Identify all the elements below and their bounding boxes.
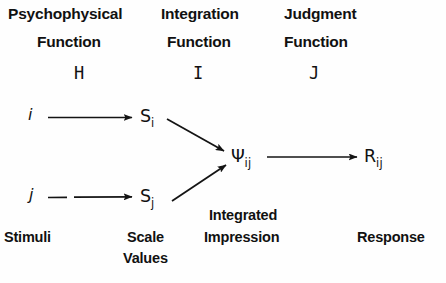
- bottom-label-values: Values: [123, 251, 168, 266]
- arrow-j-to-sj: [48, 197, 132, 198]
- column-header-integration-line1: Integration: [161, 6, 239, 22]
- node-scale-value-si: Si: [140, 108, 154, 129]
- diagram-canvas: Psychophysical Function H Integration Fu…: [0, 0, 446, 283]
- node-stimulus-i: i: [28, 107, 32, 123]
- function-symbol-h: H: [74, 65, 84, 82]
- psi-subscript: ij: [245, 156, 252, 170]
- bottom-label-integrated: Integrated: [209, 208, 277, 223]
- scale-value-si-subscript: i: [151, 116, 155, 130]
- bottom-label-scale: Scale: [127, 230, 164, 245]
- column-header-integration-line2: Function: [167, 34, 231, 50]
- node-response-r: Rij: [364, 148, 383, 169]
- node-stimulus-j: j: [29, 187, 33, 203]
- column-header-psychophysical-line1: Psychophysical: [8, 6, 122, 22]
- arrow-sj-to-psi: [172, 165, 226, 201]
- scale-value-si-base: S: [140, 106, 151, 126]
- bottom-label-stimuli: Stimuli: [4, 230, 51, 245]
- scale-value-sj-base: S: [140, 186, 151, 206]
- response-base: R: [364, 146, 376, 166]
- psi-base: Ψ: [231, 146, 245, 166]
- column-header-judgment-line1: Judgment: [284, 6, 356, 22]
- function-symbol-i: I: [193, 65, 203, 82]
- scale-value-sj-subscript: j: [151, 196, 155, 210]
- column-header-psychophysical-line2: Function: [37, 34, 101, 50]
- arrow-si-to-psi: [167, 119, 224, 151]
- function-symbol-j: J: [309, 65, 319, 82]
- bottom-label-response: Response: [357, 230, 425, 245]
- node-integrated-impression-psi: Ψij: [231, 148, 252, 169]
- node-scale-value-sj: Sj: [140, 188, 154, 209]
- bottom-label-impression: Impression: [204, 230, 279, 245]
- column-header-judgment-line2: Function: [284, 34, 348, 50]
- response-subscript: ij: [376, 156, 383, 170]
